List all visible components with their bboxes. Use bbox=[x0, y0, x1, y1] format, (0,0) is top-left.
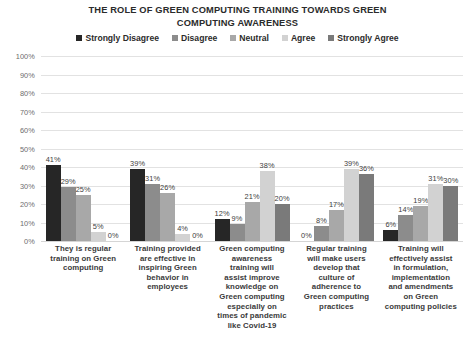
x-axis-category-label-line: and amendments bbox=[381, 282, 461, 292]
x-axis-category-label-line: training will bbox=[212, 263, 292, 273]
bar-slot: 5% bbox=[91, 56, 106, 241]
y-axis-tick-label: 30% bbox=[20, 181, 35, 190]
x-axis-category-label-line: employees bbox=[127, 282, 207, 292]
bar-value-label: 5% bbox=[93, 222, 104, 231]
legend-item-disagree[interactable]: Disagree bbox=[172, 33, 217, 43]
legend-item-neutral[interactable]: Neutral bbox=[230, 33, 269, 43]
bar[interactable] bbox=[145, 184, 160, 241]
bar[interactable] bbox=[344, 169, 359, 241]
bar-slot: 8% bbox=[314, 56, 329, 241]
x-axis-category-label: Regular trainingwill make usersdevelop t… bbox=[294, 244, 378, 330]
chart-title-line-2: COMPUTING AWARENESS bbox=[0, 17, 475, 30]
x-axis-category-label-line: effectively assist bbox=[381, 254, 461, 264]
bar-slot: 17% bbox=[329, 56, 344, 241]
bar-group: 6%14%19%31%30% bbox=[379, 56, 463, 241]
x-axis-category-label-line: awareness bbox=[212, 254, 292, 264]
x-axis-category-label-line: Green computing bbox=[212, 292, 292, 302]
legend-swatch-icon bbox=[76, 35, 82, 41]
bar-group: 39%31%26%4%0% bbox=[125, 56, 209, 241]
legend-item-agree[interactable]: Agree bbox=[282, 33, 315, 43]
bar-slot: 26% bbox=[160, 56, 175, 241]
x-axis-category-label-line: They is regular bbox=[43, 244, 123, 254]
y-axis-tick-label: 50% bbox=[20, 144, 35, 153]
bar-group-bars: 41%29%25%5%0% bbox=[41, 56, 125, 241]
bar[interactable] bbox=[160, 193, 175, 241]
bar[interactable] bbox=[46, 165, 61, 241]
y-axis-tick-label: 40% bbox=[20, 163, 35, 172]
bar-slot: 0% bbox=[190, 56, 205, 241]
bar[interactable] bbox=[413, 206, 428, 241]
bar-value-label: 39% bbox=[344, 159, 359, 168]
x-axis-category-label-line: especially on bbox=[212, 302, 292, 312]
bar-slot: 36% bbox=[359, 56, 374, 241]
bar[interactable] bbox=[398, 215, 413, 241]
bar-slot: 0% bbox=[106, 56, 121, 241]
bar[interactable] bbox=[329, 210, 344, 241]
y-axis-tick-label: 90% bbox=[20, 70, 35, 79]
y-axis-tick-label: 10% bbox=[20, 218, 35, 227]
bar-slot: 4% bbox=[175, 56, 190, 241]
legend-item-label: Disagree bbox=[181, 33, 217, 43]
bar-value-label: 21% bbox=[244, 192, 259, 201]
bar[interactable] bbox=[230, 224, 245, 241]
bar[interactable] bbox=[359, 174, 374, 241]
x-axis-category-label-line: inspiring Green bbox=[127, 263, 207, 273]
bar-value-label: 0% bbox=[192, 231, 203, 240]
y-axis-tick-label: 70% bbox=[20, 107, 35, 116]
bar-group: 41%29%25%5%0% bbox=[41, 56, 125, 241]
bar[interactable] bbox=[260, 171, 275, 241]
bar[interactable] bbox=[130, 169, 145, 241]
legend-item-strongly-agree[interactable]: Strongly Agree bbox=[328, 33, 398, 43]
y-axis-tick-label: 80% bbox=[20, 89, 35, 98]
y-axis-tick-label: 20% bbox=[20, 200, 35, 209]
x-axis-category-label-line: on Green bbox=[381, 292, 461, 302]
bar[interactable] bbox=[61, 187, 76, 241]
bar-value-label: 4% bbox=[177, 224, 188, 233]
bar-group: 12%9%21%38%20% bbox=[210, 56, 294, 241]
bar[interactable] bbox=[245, 202, 260, 241]
gridline bbox=[41, 241, 463, 242]
x-axis-category-label-line: assist improve bbox=[212, 273, 292, 283]
bar[interactable] bbox=[314, 226, 329, 241]
x-axis-category-label-line: culture of bbox=[296, 273, 376, 283]
legend-item-label: Agree bbox=[291, 33, 315, 43]
bar-group-bars: 0%8%17%39%36% bbox=[294, 56, 378, 241]
bar-slot: 6% bbox=[383, 56, 398, 241]
x-axis-category-label-line: practices bbox=[296, 302, 376, 312]
x-axis-category-label: Training willeffectively assistin formul… bbox=[379, 244, 463, 330]
x-axis-category-label-line: adherence to bbox=[296, 282, 376, 292]
bar[interactable] bbox=[443, 186, 458, 242]
bar-slot: 19% bbox=[413, 56, 428, 241]
bar-slot: 30% bbox=[443, 56, 458, 241]
x-axis-category-label-line: like Covid-19 bbox=[212, 321, 292, 331]
bar-value-label: 17% bbox=[329, 200, 344, 209]
chart-title-line-1: THE ROLE OF GREEN COMPUTING TRAINING TOW… bbox=[0, 4, 475, 17]
x-axis-category-label-line: Training provided bbox=[127, 244, 207, 254]
bar-group: 0%8%17%39%36% bbox=[294, 56, 378, 241]
bar[interactable] bbox=[175, 234, 190, 241]
bar-group-bars: 6%14%19%31%30% bbox=[379, 56, 463, 241]
bar-value-label: 38% bbox=[259, 161, 274, 170]
bar[interactable] bbox=[383, 230, 398, 241]
bar[interactable] bbox=[215, 219, 230, 241]
x-axis-category-label-line: implementation bbox=[381, 273, 461, 283]
x-axis-category-label: Training providedare effective ininspiri… bbox=[125, 244, 209, 330]
bar-value-label: 31% bbox=[428, 174, 443, 183]
bar-slot: 41% bbox=[46, 56, 61, 241]
bar[interactable] bbox=[91, 232, 106, 241]
bar[interactable] bbox=[76, 195, 91, 241]
bar[interactable] bbox=[275, 204, 290, 241]
bar-slot: 21% bbox=[245, 56, 260, 241]
chart-container: THE ROLE OF GREEN COMPUTING TRAINING TOW… bbox=[0, 0, 475, 340]
x-axis-category-label-line: in formulation, bbox=[381, 263, 461, 273]
x-axis-category-label-line: behavior in bbox=[127, 273, 207, 283]
bar-value-label: 36% bbox=[359, 164, 374, 173]
y-axis-tick-label: 60% bbox=[20, 126, 35, 135]
bar[interactable] bbox=[428, 184, 443, 241]
bar-slot: 31% bbox=[428, 56, 443, 241]
x-axis-category-label-line: Green computing bbox=[296, 292, 376, 302]
bar-slot: 14% bbox=[398, 56, 413, 241]
bar-value-label: 20% bbox=[274, 194, 289, 203]
chart-title: THE ROLE OF GREEN COMPUTING TRAINING TOW… bbox=[0, 4, 475, 29]
legend-item-strongly-disagree[interactable]: Strongly Disagree bbox=[76, 33, 159, 43]
